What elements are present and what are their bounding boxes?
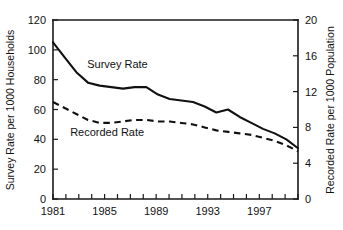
left-axis-title: Survey Rate per 1000 Households [4,30,16,191]
survey-recorded-rate-line-chart: 020406080100120 048121620 19811985198919… [0,0,343,230]
right-tick-label: 8 [305,121,311,133]
right-tick-label: 16 [305,50,317,62]
right-tick-label: 12 [305,86,317,98]
right-axis-title: Recorded Rate per 1000 Population [324,26,336,194]
x-tick-label: 1985 [92,205,116,217]
left-tick-label: 40 [34,133,46,145]
x-tick-label: 1989 [144,205,168,217]
left-tick-label: 100 [28,44,46,56]
left-tick-label: 60 [34,104,46,116]
x-tick-label: 1997 [247,205,271,217]
right-tick-label: 20 [305,14,317,26]
left-tick-label: 0 [40,193,46,205]
x-tick-label: 1981 [41,205,65,217]
x-tick-label: 1993 [195,205,219,217]
right-tick-label: 0 [305,193,311,205]
survey-rate-annotation: Survey Rate [87,58,148,70]
right-tick-label: 4 [305,157,311,169]
recorded-rate-annotation: Recorded Rate [70,126,144,138]
left-tick-label: 80 [34,74,46,86]
chart-background [0,0,343,230]
left-tick-label: 120 [28,14,46,26]
chart-container: 020406080100120 048121620 19811985198919… [0,0,343,230]
left-tick-label: 20 [34,163,46,175]
